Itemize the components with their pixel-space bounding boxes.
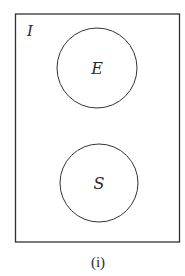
venn-diagram: I E S (i) [0,0,185,276]
caption: (i) [91,254,105,271]
set-e-label: E [90,59,103,78]
universe-rectangle [16,14,180,242]
set-s-label: S [94,174,105,193]
universe-label: I [26,22,34,40]
